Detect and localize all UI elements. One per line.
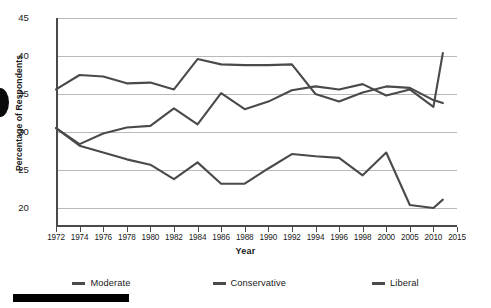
legend-swatch-liberal [372, 282, 385, 285]
series-line-conservative [56, 53, 443, 144]
x-tick-mark-1982 [174, 227, 175, 232]
x-tick-mark-2010 [433, 227, 434, 232]
y-tick-45: 45 [0, 12, 29, 23]
x-tick-mark-1984 [198, 227, 199, 232]
y-tick-35: 35 [0, 88, 29, 99]
x-tick-mark-1998 [363, 227, 364, 232]
x-tick-mark-1988 [245, 227, 246, 232]
chart-page: Percentage of Respondents 454035302520 1… [0, 0, 491, 308]
series-line-moderate [56, 59, 443, 103]
x-tick-mark-2000 [386, 227, 387, 232]
chart-legend: ModerateConservativeLiberal [0, 274, 491, 292]
x-tick-mark-1974 [80, 227, 81, 232]
x-tick-mark-1976 [103, 227, 104, 232]
y-tick-40: 40 [0, 50, 29, 61]
x-tick-mark-2005 [410, 227, 411, 232]
legend-swatch-moderate [72, 282, 85, 285]
x-tick-mark-1972 [56, 227, 57, 232]
legend-item-liberal[interactable]: Liberal [372, 278, 419, 288]
series-lines [56, 18, 457, 227]
x-tick-mark-1990 [268, 227, 269, 232]
legend-item-moderate[interactable]: Moderate [72, 278, 130, 288]
y-tick-25: 25 [0, 164, 29, 175]
legend-item-conservative[interactable]: Conservative [213, 278, 286, 288]
legend-label-conservative: Conservative [231, 278, 286, 288]
y-tick-30: 30 [0, 126, 29, 137]
x-tick-mark-1978 [127, 227, 128, 232]
x-axis-title: Year [0, 246, 491, 256]
x-tick-2015: 2015 [442, 233, 472, 242]
series-line-liberal [56, 128, 443, 208]
x-tick-mark-1994 [316, 227, 317, 232]
x-tick-mark-1980 [150, 227, 151, 232]
x-tick-mark-1996 [339, 227, 340, 232]
y-axis-title: Percentage of Respondents [14, 18, 24, 208]
legend-label-moderate: Moderate [90, 278, 130, 288]
x-tick-mark-2015 [457, 227, 458, 232]
x-tick-mark-1992 [292, 227, 293, 232]
legend-label-liberal: Liberal [390, 278, 419, 288]
bottom-rule-artifact [13, 294, 129, 302]
x-tick-mark-1986 [221, 227, 222, 232]
legend-swatch-conservative [213, 282, 226, 285]
y-tick-20: 20 [0, 202, 29, 213]
